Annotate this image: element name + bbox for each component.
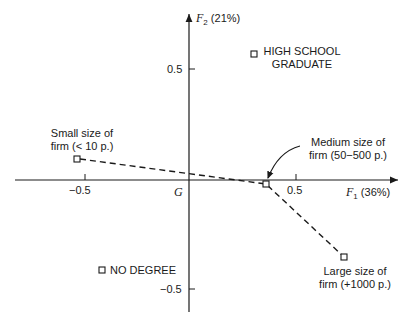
y-axis-title-percent: (21%) xyxy=(211,12,240,24)
point-marker-large-firm xyxy=(341,254,347,260)
label-line: NO DEGREE xyxy=(110,264,176,277)
x-axis-title-percent: (36%) xyxy=(361,186,390,198)
label-no-degree: NO DEGREE xyxy=(110,264,176,277)
label-line: Large size of xyxy=(305,265,405,278)
x-tick-label-neg-0.5: −0.5 xyxy=(69,184,91,197)
y-tick-label-neg-0.5: −0.5 xyxy=(160,283,182,296)
y-axis-title-subscript: 2 xyxy=(203,18,207,27)
medium-firm-annotation-arrow xyxy=(268,146,300,178)
x-axis-title-subscript: 1 xyxy=(353,192,357,201)
y-axis-title: F2 (21%) xyxy=(196,12,240,29)
label-high-school-graduate: HIGH SCHOOL GRADUATE xyxy=(262,45,342,71)
origin-label: G xyxy=(174,186,183,199)
label-line: firm (< 10 p.) xyxy=(42,140,122,153)
point-marker-small-firm xyxy=(74,156,80,162)
label-line: firm (+1000 p.) xyxy=(305,278,405,291)
x-tick-label-0.5: 0.5 xyxy=(287,184,302,197)
label-line: Medium size of xyxy=(298,136,398,149)
point-marker-medium-firm xyxy=(263,181,269,187)
label-medium-firm: Medium size of firm (50−500 p.) xyxy=(298,136,398,162)
label-large-firm: Large size of firm (+1000 p.) xyxy=(305,265,405,291)
label-line: Small size of xyxy=(42,127,122,140)
label-line: HIGH SCHOOL xyxy=(262,45,342,58)
y-tick-label-0.5: 0.5 xyxy=(167,63,182,76)
label-line: firm (50−500 p.) xyxy=(298,149,398,162)
point-marker-high-school-graduate xyxy=(251,51,257,57)
firm-size-trajectory xyxy=(80,159,344,257)
label-small-firm: Small size of firm (< 10 p.) xyxy=(42,127,122,153)
x-axis-title: F1 (36%) xyxy=(346,186,390,203)
point-marker-no-degree xyxy=(99,267,105,273)
label-line: GRADUATE xyxy=(262,58,342,71)
